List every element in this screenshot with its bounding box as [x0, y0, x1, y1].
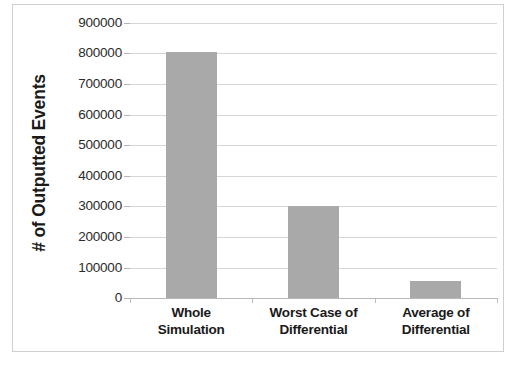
- x-axis-category-labels: WholeSimulationWorst Case ofDifferential…: [130, 304, 497, 348]
- category-label-line: Average of: [375, 304, 497, 321]
- plot-area: [130, 23, 497, 299]
- category-label-2: Average ofDifferential: [375, 304, 497, 338]
- category-label-0: WholeSimulation: [130, 304, 252, 338]
- gridline-900000: [130, 23, 497, 24]
- category-label-line: Whole: [130, 304, 252, 321]
- category-label-1: Worst Case ofDifferential: [252, 304, 374, 338]
- bar-0: [166, 52, 217, 299]
- category-label-line: Differential: [375, 321, 497, 338]
- category-label-line: Simulation: [130, 321, 252, 338]
- bar-chart-figure: # of Outputted Events 010000020000030000…: [0, 0, 515, 365]
- category-label-line: Differential: [252, 321, 374, 338]
- x-tick-mark-3: [497, 298, 498, 303]
- category-label-line: Worst Case of: [252, 304, 374, 321]
- bar-1: [288, 206, 339, 298]
- x-axis-line: [130, 298, 497, 299]
- bar-2: [410, 281, 461, 298]
